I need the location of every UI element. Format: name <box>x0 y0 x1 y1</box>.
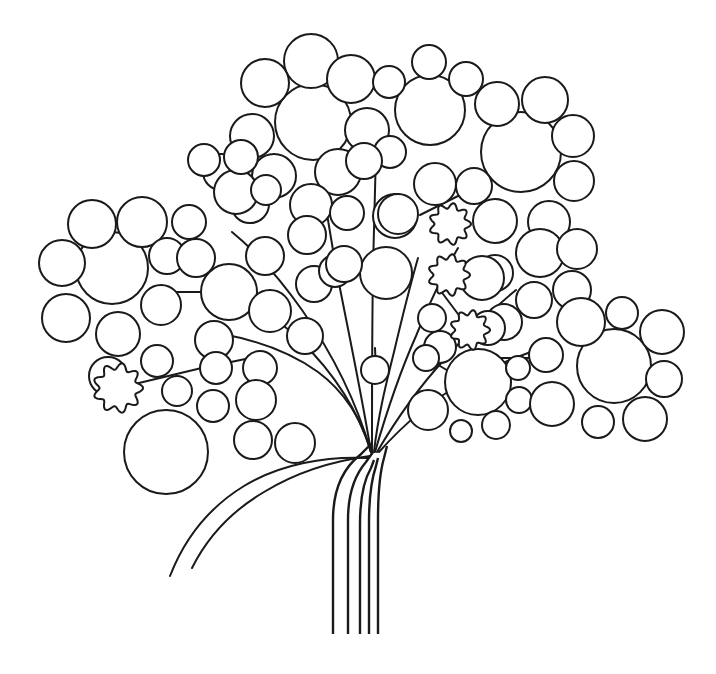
cluster-left-main-circle-1 <box>68 200 116 248</box>
cluster-loose-fill-circle-4 <box>346 143 382 179</box>
tree-illustration <box>0 0 716 674</box>
cluster-top-center-left-circle-3 <box>327 55 375 103</box>
cluster-far-right-circle-1 <box>557 298 605 346</box>
cluster-top-right-circle-6 <box>414 163 456 205</box>
cluster-center-stem-circle-2 <box>378 194 418 234</box>
cluster-left-mid-circle-14 <box>200 352 232 384</box>
cluster-loose-fill-circle-3 <box>418 304 446 332</box>
cluster-right-upper-circle-12 <box>516 282 552 318</box>
cluster-far-right-circle-6 <box>582 406 614 438</box>
cluster-left-main-circle-3 <box>39 240 85 286</box>
cluster-top-right-circle-1 <box>412 45 446 79</box>
cluster-right-upper-circle-7 <box>456 168 492 204</box>
cluster-top-right-circle-2 <box>449 62 483 96</box>
cluster-left-mid-circle-1 <box>177 239 215 277</box>
cluster-right-upper-circle-2 <box>522 77 568 123</box>
cluster-right-upper-circle-6 <box>473 199 517 243</box>
cluster-left-mid-circle-2 <box>246 237 284 275</box>
cluster-left-mid-circle-3 <box>249 290 291 332</box>
cluster-top-center-left-circle-2 <box>241 59 289 107</box>
cluster-left-mid-circle-10 <box>288 216 326 254</box>
cluster-top-right-circle-3 <box>373 66 405 98</box>
cluster-bottom-left-hub-circle <box>124 410 208 494</box>
cluster-far-right-circle-5 <box>623 397 667 441</box>
cluster-right-lower-circle-3 <box>506 387 532 413</box>
cluster-bottom-left-circle-2 <box>197 390 229 422</box>
cluster-right-upper-circle-3 <box>552 115 594 157</box>
cluster-center-stem-hub-circle <box>361 356 389 384</box>
cluster-left-main-circle-9 <box>141 345 173 377</box>
cluster-bottom-left-circle-4 <box>275 423 315 463</box>
cluster-far-right-circle-3 <box>640 310 684 354</box>
artboard <box>0 0 716 674</box>
cluster-right-upper-circle-1 <box>475 82 519 126</box>
cluster-right-upper-circle-4 <box>554 161 594 201</box>
cluster-far-right-circle-4 <box>646 361 682 397</box>
cluster-left-mid-circle-7 <box>188 144 220 176</box>
cluster-loose-fill-circle-5 <box>162 376 192 406</box>
cluster-right-lower-circle-6 <box>408 390 448 430</box>
cluster-center-stem-circle-4 <box>330 196 364 230</box>
cluster-right-lower-circle-7 <box>413 345 439 371</box>
cluster-center-stem-circle-3 <box>326 246 362 282</box>
cluster-far-right-circle-8 <box>529 338 563 372</box>
cluster-left-main-circle-4 <box>42 294 90 342</box>
cluster-left-mid-circle-5 <box>172 205 206 239</box>
cluster-right-upper-circle-9 <box>557 229 597 269</box>
cluster-right-lower-circle-5 <box>450 420 472 442</box>
cluster-left-mid-circle-9 <box>251 175 281 205</box>
cluster-far-right-circle-2 <box>606 297 638 329</box>
cluster-left-mid-circle-12 <box>287 318 323 354</box>
cluster-right-lower-hub-circle <box>445 349 511 415</box>
cluster-bottom-left-circle-1 <box>236 380 276 420</box>
cluster-right-lower-circle-2 <box>506 356 530 380</box>
cluster-far-right-circle-7 <box>530 382 574 426</box>
cluster-left-main-circle-6 <box>141 285 181 325</box>
cluster-left-mid-circle-8 <box>224 140 258 174</box>
cluster-left-main-circle-5 <box>96 312 140 356</box>
cluster-center-stem-circle-1 <box>360 247 412 299</box>
cluster-bottom-left-circle-3 <box>234 421 272 459</box>
cluster-right-lower-circle-4 <box>482 411 510 439</box>
